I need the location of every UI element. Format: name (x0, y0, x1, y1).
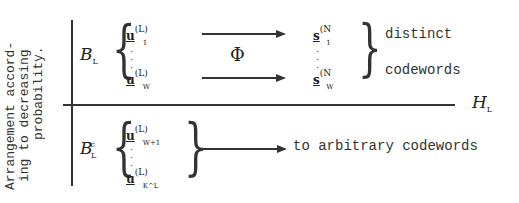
arrow-bottom (203, 148, 285, 150)
codeword-s-W: s(NW (313, 70, 333, 91)
label-codewords: codewords (385, 62, 461, 78)
codeword-s-1: s(N1 (313, 26, 331, 47)
horizontal-divider-line (63, 104, 455, 106)
vertical-axis-line (71, 20, 73, 186)
arrow-top-1 (202, 33, 284, 35)
mapping-phi: Φ (230, 44, 245, 65)
vertical-ellipsis-top-right: ··· (316, 48, 319, 72)
side-label-line-2: ing to decreasing (18, 15, 32, 190)
right-brace-bottom: } (184, 112, 208, 182)
right-brace-top: } (358, 13, 382, 83)
label-to-arbitrary-codewords: to arbitrary codewords (293, 138, 478, 154)
set-B-L: BL (80, 44, 98, 66)
set-B-L-complement: BcL (80, 138, 96, 160)
side-label-line-1: Arrangement accord- (4, 15, 18, 190)
divider-symbol-H: HL (472, 92, 492, 114)
vector-u-W: u(L)W (126, 70, 150, 91)
vector-u-K-L: u(L)K^L (126, 169, 158, 190)
side-label-arrangement: Arrangement accord- ing to decreasing pr… (4, 15, 46, 190)
label-distinct: distinct (385, 26, 452, 42)
side-label-line-3: probability. (32, 15, 46, 190)
vector-u-1: u(L)1 (126, 26, 147, 47)
vertical-ellipsis-top-left: ··· (130, 48, 133, 72)
arrow-top-2 (202, 77, 284, 79)
vertical-ellipsis-bottom: ··· (130, 146, 133, 170)
